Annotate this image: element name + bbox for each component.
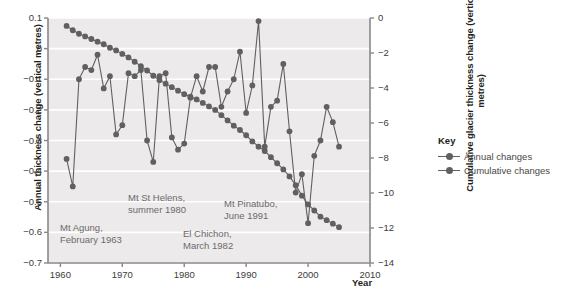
chart-figure: Annual thickness change (vertical metres… bbox=[0, 0, 569, 298]
annotation-mt-agung: Mt Agung,February 1963 bbox=[60, 222, 122, 245]
data-point bbox=[150, 159, 156, 165]
data-point bbox=[70, 184, 76, 190]
data-point bbox=[262, 144, 268, 150]
data-point bbox=[293, 190, 299, 196]
data-point bbox=[225, 89, 231, 95]
x-axis-tick-label: 1980 bbox=[164, 269, 204, 280]
data-point bbox=[132, 59, 138, 65]
data-point bbox=[64, 23, 70, 29]
y-axis-left-tick-label: −0.7 bbox=[12, 257, 42, 268]
data-point bbox=[157, 73, 163, 79]
data-point bbox=[336, 224, 342, 230]
legend-marker-icon bbox=[438, 151, 460, 161]
x-axis-tick-label: 1960 bbox=[40, 269, 80, 280]
annotation-mt-pinatubo: Mt Pinatubo,June 1991 bbox=[224, 198, 277, 221]
y-axis-left-tick-label: −0.3 bbox=[12, 135, 42, 146]
data-point bbox=[225, 117, 231, 123]
data-point bbox=[88, 36, 94, 42]
data-point bbox=[119, 122, 125, 128]
data-point bbox=[76, 31, 82, 37]
y-axis-right-tick-label: 0 bbox=[378, 12, 410, 23]
data-point bbox=[280, 166, 286, 172]
data-point bbox=[274, 160, 280, 166]
data-point bbox=[101, 86, 107, 92]
data-point bbox=[126, 54, 132, 60]
data-point bbox=[107, 73, 113, 79]
data-point bbox=[231, 76, 237, 82]
data-point bbox=[194, 73, 200, 79]
x-axis-tick-label: 2000 bbox=[288, 269, 328, 280]
data-point bbox=[107, 45, 113, 51]
data-point bbox=[95, 52, 101, 58]
y-axis-right-tick-label: −6 bbox=[378, 117, 410, 128]
data-point bbox=[218, 104, 224, 110]
data-point bbox=[144, 138, 150, 144]
annotation-line-2: June 1991 bbox=[224, 210, 277, 222]
data-point bbox=[76, 76, 82, 82]
data-point bbox=[218, 112, 224, 118]
y-axis-right-tick-label: −10 bbox=[378, 187, 410, 198]
y-axis-right-tick-label: −2 bbox=[378, 47, 410, 58]
data-point bbox=[101, 41, 107, 47]
series-line bbox=[67, 26, 339, 227]
data-point bbox=[200, 89, 206, 95]
data-point bbox=[150, 73, 156, 79]
data-point bbox=[268, 154, 274, 160]
legend-dot bbox=[446, 153, 453, 160]
data-point bbox=[200, 100, 206, 106]
data-point bbox=[243, 132, 249, 138]
data-point bbox=[256, 18, 262, 24]
series-cumulative-changes bbox=[64, 23, 342, 230]
data-point bbox=[237, 127, 243, 133]
data-point bbox=[163, 81, 169, 87]
y-axis-left-tick-label: −0.1 bbox=[12, 73, 42, 84]
data-point bbox=[318, 138, 324, 144]
data-point bbox=[132, 73, 138, 79]
y-axis-right-tick-label: −14 bbox=[378, 257, 410, 268]
y-axis-left-tick-label: 0.1 bbox=[12, 12, 42, 23]
annotation-line-1: Mt Pinatubo, bbox=[224, 198, 277, 210]
legend-label: Annual changes bbox=[464, 151, 532, 162]
data-point bbox=[169, 84, 175, 90]
data-point bbox=[194, 96, 200, 102]
annotation-line-2: March 1982 bbox=[183, 240, 233, 252]
annotation-mt-st-helens: Mt St Helens,summer 1980 bbox=[128, 192, 186, 215]
y-axis-left-tick-label: −0.4 bbox=[12, 165, 42, 176]
legend-item-annual: Annual changes bbox=[438, 149, 566, 163]
data-point bbox=[249, 138, 255, 144]
x-axis-tick-label: 2010 bbox=[350, 269, 390, 280]
data-point bbox=[82, 33, 88, 39]
data-point bbox=[113, 47, 119, 53]
data-point bbox=[287, 173, 293, 179]
data-point bbox=[280, 61, 286, 67]
legend-title: Key bbox=[438, 135, 566, 146]
data-point bbox=[175, 147, 181, 153]
data-point bbox=[113, 131, 119, 137]
annotation-line-2: February 1963 bbox=[60, 234, 122, 246]
data-point bbox=[249, 82, 255, 88]
data-point bbox=[330, 119, 336, 125]
data-point bbox=[88, 67, 94, 73]
data-point bbox=[274, 98, 280, 104]
data-point bbox=[181, 91, 187, 97]
y-axis-left-tick-label: 0 bbox=[12, 43, 42, 54]
annotation-line-1: Mt St Helens, bbox=[128, 192, 186, 204]
data-point bbox=[324, 217, 330, 223]
data-point bbox=[126, 70, 132, 76]
data-point bbox=[256, 144, 262, 150]
y-axis-right-tick-label: −8 bbox=[378, 152, 410, 163]
data-point bbox=[311, 153, 317, 159]
data-point bbox=[330, 221, 336, 227]
data-point bbox=[305, 220, 311, 226]
data-point bbox=[243, 110, 249, 116]
data-point bbox=[163, 70, 169, 76]
data-point bbox=[82, 64, 88, 70]
legend-label: Cumulative changes bbox=[464, 165, 550, 176]
annotation-line-1: El Chichon, bbox=[183, 228, 233, 240]
legend-item-cumulative: Cumulative changes bbox=[438, 163, 566, 177]
data-point bbox=[144, 68, 150, 74]
data-point bbox=[169, 135, 175, 141]
x-axis-tick-label: 1990 bbox=[226, 269, 266, 280]
data-point bbox=[299, 171, 305, 177]
data-point bbox=[287, 128, 293, 134]
